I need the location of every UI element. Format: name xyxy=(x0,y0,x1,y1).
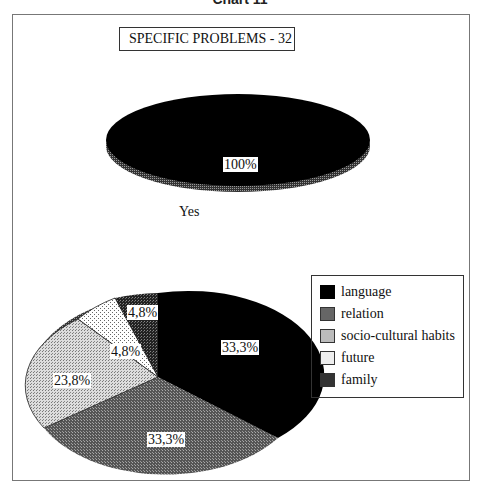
legend: language relation socio-cultural habits … xyxy=(311,275,464,398)
legend-item-relation: relation xyxy=(320,304,384,324)
label-socio-cultural: 23,8% xyxy=(53,373,91,388)
swatch-relation xyxy=(320,307,335,321)
label-language: 33,3% xyxy=(221,340,259,355)
top-pie-category: Yes xyxy=(179,204,199,220)
label-future: 4,8% xyxy=(110,344,141,359)
legend-item-socio-cultural: socio-cultural habits xyxy=(320,326,455,346)
swatch-socio-cultural xyxy=(320,329,335,343)
pie-charts-graphic xyxy=(0,0,480,496)
swatch-family xyxy=(320,373,335,387)
swatch-language xyxy=(320,285,335,299)
top-pie xyxy=(106,94,370,192)
legend-item-future: future xyxy=(320,348,374,368)
top-pie-label: 100% xyxy=(223,157,258,172)
top-pie-yes-slice xyxy=(106,94,370,186)
legend-item-family: family xyxy=(320,370,378,390)
label-relation: 33,3% xyxy=(147,432,185,447)
swatch-future xyxy=(320,351,335,365)
legend-item-language: language xyxy=(320,282,392,302)
label-family: 4,8% xyxy=(127,305,158,320)
